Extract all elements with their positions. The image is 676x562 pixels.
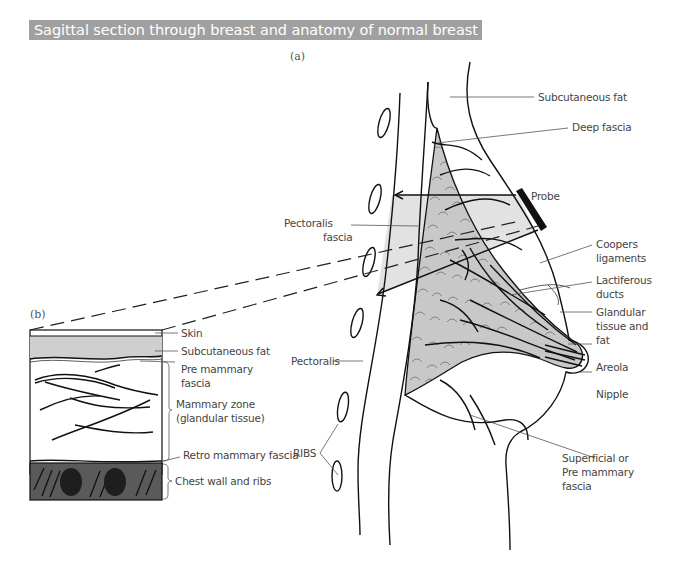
- label-coopers-line2: ligaments: [596, 252, 646, 264]
- pectoralis-back-line: [358, 93, 400, 535]
- label-lactiferous-line2: ducts: [596, 288, 624, 300]
- label-superficial-line2: Pre mammary: [562, 466, 634, 478]
- anatomy-diagram: (a): [0, 0, 676, 562]
- label-pre-mammary-line2: fascia: [181, 377, 211, 389]
- label-mammary-zone-line2: (glandular tissue): [176, 412, 265, 424]
- label-deep-fascia: Deep fascia: [572, 121, 632, 133]
- label-lactiferous-line1: Lactiferous: [596, 274, 652, 286]
- label-coopers-line1: Coopers: [596, 238, 638, 250]
- label-subcutaneous-fat: Subcutaneous fat: [538, 91, 627, 103]
- label-mammary-zone-line1: Mammary zone: [176, 398, 255, 410]
- rib-cross-section: [60, 468, 82, 496]
- inframammary-fold: [405, 395, 528, 440]
- label-pre-mammary-line1: Pre mammary: [181, 363, 253, 375]
- label-skin: Skin: [181, 327, 203, 339]
- label-retro-mammary: Retro mammary fascia: [183, 449, 298, 461]
- label-glandular-line1: Glandular: [596, 306, 646, 318]
- label-probe: Probe: [531, 190, 560, 202]
- label-b-subcutaneous-fat: Subcutaneous fat: [181, 345, 270, 357]
- tissue-layer-box: [30, 330, 162, 500]
- label-glandular-line2: tissue and: [596, 320, 648, 332]
- rib-cross-section: [104, 468, 126, 496]
- label-nipple: Nipple: [596, 388, 628, 400]
- panel-b-label: (b): [30, 308, 46, 321]
- label-pectoralis: Pectoralis: [291, 355, 340, 367]
- label-pectoralis-fascia-line2: fascia: [323, 231, 353, 243]
- label-superficial-line3: fascia: [562, 480, 592, 492]
- panel-a-label: (a): [290, 50, 305, 63]
- glandular-tissue-region: [405, 128, 583, 395]
- subcutaneous-line: [428, 82, 437, 128]
- label-superficial-line1: Superficial or: [562, 452, 630, 464]
- ribs: [332, 107, 393, 491]
- label-areola: Areola: [596, 361, 628, 373]
- label-glandular-line3: fat: [596, 334, 610, 346]
- label-pectoralis-fascia-line1: Pectoralis: [284, 217, 333, 229]
- label-chest-wall: Chest wall and ribs: [175, 475, 271, 487]
